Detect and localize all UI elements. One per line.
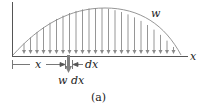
load-intensity-label: w [151, 7, 161, 20]
element-force-arrow [65, 55, 72, 73]
element-force-label: w dx [58, 74, 85, 87]
dimension-dx [73, 60, 84, 69]
x-axis-label: x [190, 50, 197, 63]
distributed-load-diagram: x dx w x w dx (a) [0, 0, 202, 110]
figure-caption: (a) [91, 91, 106, 104]
position-label: x [35, 58, 42, 71]
element-width-label: dx [85, 58, 99, 71]
